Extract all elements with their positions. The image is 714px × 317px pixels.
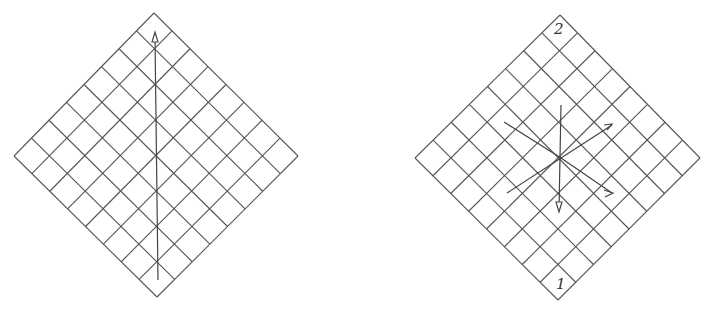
diagram-canvas [0,0,714,317]
label-bottom: 1 [556,275,566,293]
right-diamond-grid [415,15,700,300]
label-top: 2 [554,20,564,38]
